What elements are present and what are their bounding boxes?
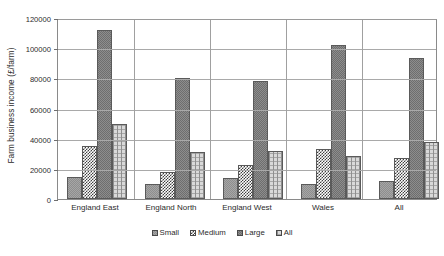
- bar: [223, 178, 238, 199]
- chart-container: Farm business income (£/farm) 0200004000…: [0, 0, 444, 256]
- y-axis-tickmark: [54, 49, 58, 50]
- bar: [145, 184, 160, 199]
- category-separator: [134, 20, 135, 199]
- category-separator: [210, 20, 211, 199]
- y-axis-tickmark: [54, 140, 58, 141]
- gridline: [58, 49, 436, 50]
- bar: [331, 45, 346, 199]
- y-axis-tick-labels: 020000400006000080000100000120000: [18, 18, 55, 200]
- y-axis-tickmark: [54, 19, 58, 20]
- y-axis-tickmark: [54, 79, 58, 80]
- y-axis-tick: 120000: [26, 15, 51, 24]
- bar: [67, 177, 82, 199]
- bar: [190, 152, 205, 199]
- x-axis-category-labels: England EastEngland NorthEngland WestWal…: [57, 203, 437, 219]
- category-separator: [286, 20, 287, 199]
- gridline: [58, 140, 436, 141]
- y-axis-tick: 20000: [30, 165, 51, 174]
- bar: [82, 146, 97, 199]
- plot-area: [57, 19, 437, 200]
- legend-swatch-icon: [190, 230, 196, 236]
- gridline: [58, 79, 436, 80]
- legend-item[interactable]: Large: [237, 228, 265, 237]
- x-axis-category-label: England West: [209, 203, 285, 219]
- legend-swatch-icon: [276, 230, 282, 236]
- legend-label: Medium: [198, 228, 226, 237]
- y-axis-tick: 60000: [30, 105, 51, 114]
- x-axis-category-label: All: [361, 203, 437, 219]
- bar: [160, 172, 175, 199]
- legend-label: Small: [160, 228, 180, 237]
- bar: [394, 158, 409, 199]
- y-axis-tickmark: [54, 110, 58, 111]
- bar: [112, 124, 127, 199]
- y-axis-title-label: Farm business income (£/farm): [7, 47, 16, 163]
- y-axis-tickmark: [54, 200, 58, 201]
- chart-legend: SmallMediumLargeAll: [0, 228, 444, 237]
- bar: [301, 184, 316, 199]
- bar: [316, 149, 331, 199]
- x-axis-category-label: England East: [57, 203, 133, 219]
- legend-label: All: [284, 228, 293, 237]
- x-axis-category-label: Wales: [285, 203, 361, 219]
- legend-item[interactable]: All: [276, 228, 293, 237]
- bar: [97, 30, 112, 199]
- legend-swatch-icon: [152, 230, 158, 236]
- bar: [346, 156, 361, 199]
- legend-item[interactable]: Small: [152, 228, 180, 237]
- y-axis-tickmark: [54, 170, 58, 171]
- legend-item[interactable]: Medium: [190, 228, 226, 237]
- legend-label: Large: [245, 228, 265, 237]
- y-axis-tick: 40000: [30, 135, 51, 144]
- bar: [379, 181, 394, 199]
- gridline: [58, 170, 436, 171]
- y-axis-tick: 0: [47, 196, 51, 205]
- gridline: [58, 110, 436, 111]
- x-axis-category-label: England North: [133, 203, 209, 219]
- y-axis-tick: 80000: [30, 75, 51, 84]
- category-separator: [362, 20, 363, 199]
- bar: [268, 151, 283, 199]
- legend-swatch-icon: [237, 230, 243, 236]
- y-axis-tick: 100000: [26, 45, 51, 54]
